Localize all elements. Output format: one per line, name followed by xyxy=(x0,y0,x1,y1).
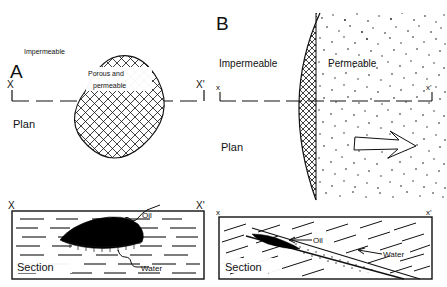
panel-a-plan-x-right: X' xyxy=(196,79,205,90)
panel-a-body-label-2: permeable xyxy=(93,82,126,90)
panel-a-impermeable-label: Impermeable xyxy=(24,48,65,56)
panel-a-plan: A Impermeable X X' Porous and permeable … xyxy=(7,48,205,158)
panel-a-section-x-left: X xyxy=(8,200,15,211)
panel-b-permeable-label: Permeable xyxy=(328,58,377,69)
panel-b-oil-label: Oil xyxy=(313,236,323,245)
panel-b-plan-x-right: x' xyxy=(426,83,432,92)
panel-b-plan: B xyxy=(216,12,447,200)
geologic-diagram-svg: A Impermeable X X' Porous and permeable … xyxy=(0,0,447,287)
panel-b-plan-view-label: Plan xyxy=(221,141,243,153)
panel-a-plan-x-left: X xyxy=(7,79,14,90)
panel-a-oil-label: Oil xyxy=(142,211,152,220)
panel-b-section-x-left: x xyxy=(216,208,220,217)
panel-b-water-label: Water xyxy=(383,250,404,259)
panel-b-plan-x-left: x xyxy=(216,83,220,92)
panel-a-water-label: Water xyxy=(141,264,162,273)
panel-b-section: x x' xyxy=(216,208,432,279)
panel-b-letter: B xyxy=(216,13,229,34)
panel-b-section-view-label: Section xyxy=(225,261,262,273)
panel-a-body-label-1: Porous and xyxy=(88,70,124,77)
panel-a-section: X X' xyxy=(8,200,205,279)
panel-a-section-x-right: X' xyxy=(196,200,205,211)
panel-b-section-x-right: x' xyxy=(426,208,432,217)
figure-canvas: A Impermeable X X' Porous and permeable … xyxy=(0,0,447,287)
panel-a-section-view-label: Section xyxy=(17,261,54,273)
panel-b-impermeable-label: Impermeable xyxy=(219,58,278,69)
panel-a-plan-view-label: Plan xyxy=(13,118,35,130)
panel-b-permeable-field xyxy=(316,12,447,200)
